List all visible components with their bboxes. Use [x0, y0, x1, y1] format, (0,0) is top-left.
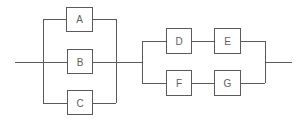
block-f: F [167, 71, 192, 96]
block-b: B [68, 50, 93, 74]
block-a: A [67, 8, 93, 32]
reliability-block-diagram: A B C D E F G [0, 0, 306, 123]
block-d-label: D [175, 36, 182, 47]
block-c: C [68, 91, 93, 115]
block-d: D [167, 29, 192, 54]
block-e: E [215, 29, 241, 54]
block-f-label: F [176, 78, 182, 89]
block-e-label: E [224, 36, 231, 47]
block-c-label: C [76, 98, 83, 109]
block-g-label: G [224, 78, 232, 89]
block-b-label: B [77, 57, 84, 68]
block-g: G [215, 71, 241, 96]
block-a-label: A [76, 14, 83, 25]
